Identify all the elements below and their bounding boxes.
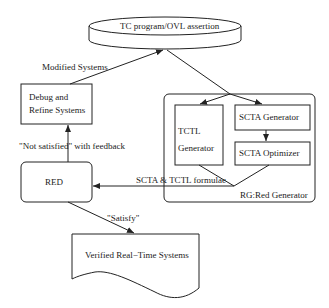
edge-rg-to-scta bbox=[230, 94, 262, 104]
scta-tctl-label: SCTA & TCTL formulae bbox=[136, 175, 226, 186]
tctl-line2: Generator bbox=[178, 143, 214, 154]
scta-opt-label: SCTA Optimizer bbox=[239, 148, 300, 159]
satisfy-label: "Satisfy" bbox=[107, 213, 139, 224]
modified-systems-label: Modified Systems bbox=[42, 62, 108, 73]
rg-group-label: RG:Red Generator bbox=[240, 190, 308, 201]
red-label: RED bbox=[45, 177, 63, 188]
verified-document-shape bbox=[72, 234, 199, 298]
not-satisfied-label: "Not satisfied" with feedback bbox=[19, 141, 125, 152]
scta-gen-label: SCTA Generator bbox=[239, 112, 299, 123]
debug-box-shape bbox=[21, 84, 92, 124]
tc-program-label: TC program/OVL assertion bbox=[120, 21, 219, 32]
flow-diagram: TC program/OVL assertion Modified System… bbox=[0, 0, 329, 308]
verified-label: Verified Real−Time Systems bbox=[85, 250, 189, 261]
edge-tc-to-rg bbox=[167, 50, 230, 94]
debug-line1: Debug and bbox=[29, 92, 68, 103]
debug-line2: Refine Systems bbox=[29, 105, 85, 116]
tctl-line1: TCTL bbox=[178, 126, 201, 137]
edge-rg-to-tctl bbox=[200, 94, 230, 104]
